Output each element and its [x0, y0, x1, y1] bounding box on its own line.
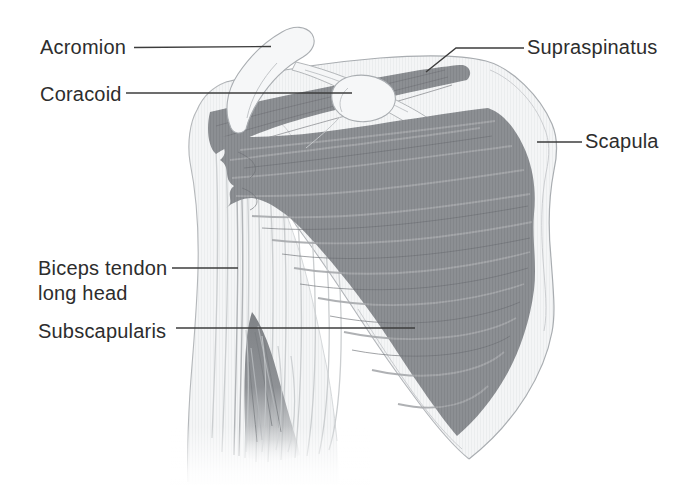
- leader-acromion: [134, 47, 271, 48]
- label-biceps-tendon-line1: Biceps tendon: [38, 256, 167, 281]
- label-subscapularis: Subscapularis: [38, 319, 166, 344]
- anatomy-illustration: [0, 0, 700, 492]
- label-coracoid: Coracoid: [40, 82, 122, 107]
- label-biceps-tendon: Biceps tendon long head: [38, 256, 167, 306]
- label-scapula: Scapula: [585, 129, 659, 154]
- label-supraspinatus: Supraspinatus: [527, 35, 657, 60]
- bottom-fade: [170, 426, 370, 492]
- artwork-group: [170, 27, 557, 492]
- label-biceps-tendon-line2: long head: [38, 281, 167, 306]
- label-acromion: Acromion: [40, 35, 126, 60]
- figure-canvas: Acromion Coracoid Supraspinatus Scapula …: [0, 0, 700, 492]
